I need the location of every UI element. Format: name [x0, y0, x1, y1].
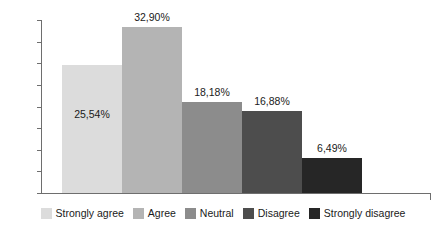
y-axis-tick-mark: [37, 128, 41, 129]
legend-item[interactable]: Neutral: [185, 208, 234, 219]
legend-label: Disagree: [258, 208, 300, 219]
legend-swatch-icon: [309, 208, 320, 219]
legend-item[interactable]: Disagree: [243, 208, 300, 219]
legend-label: Agree: [148, 208, 176, 219]
legend-label: Strongly agree: [56, 208, 124, 219]
legend-swatch-icon: [185, 208, 196, 219]
y-axis-tick-mark: [37, 42, 41, 43]
y-axis-tick-mark: [37, 193, 41, 194]
bar-group[interactable]: 16,88%: [242, 20, 302, 193]
bar-value-label: 6,49%: [284, 143, 380, 154]
legend-swatch-icon: [133, 208, 144, 219]
x-axis-line: [41, 193, 431, 194]
bar[interactable]: [122, 27, 182, 194]
y-axis-tick-mark: [37, 107, 41, 108]
legend-label: Neutral: [200, 208, 234, 219]
y-axis-line: [41, 20, 42, 194]
bar[interactable]: [302, 158, 362, 193]
bar[interactable]: [62, 65, 122, 193]
legend-swatch-icon: [41, 208, 52, 219]
legend-item[interactable]: Strongly agree: [41, 208, 124, 219]
bars-layer: 25,54%32,90%18,18%16,88%6,49%: [62, 20, 362, 193]
bar-group[interactable]: 32,90%: [122, 20, 182, 193]
x-axis-right-tick: [430, 193, 431, 200]
legend-item[interactable]: Agree: [133, 208, 176, 219]
bar-chart: 80706050403020100 25,54%32,90%18,18%16,8…: [0, 0, 446, 238]
chart-legend: Strongly agreeAgreeNeutralDisagreeStrong…: [0, 208, 446, 219]
plot-area: 80706050403020100 25,54%32,90%18,18%16,8…: [41, 20, 431, 193]
legend-label: Strongly disagree: [324, 208, 406, 219]
y-axis-tick-mark: [37, 150, 41, 151]
bar[interactable]: [182, 102, 242, 193]
bar-group[interactable]: 6,49%: [302, 20, 362, 193]
y-axis-tick-mark: [37, 63, 41, 64]
y-axis-tick-mark: [37, 20, 41, 21]
legend-swatch-icon: [243, 208, 254, 219]
legend-item[interactable]: Strongly disagree: [309, 208, 406, 219]
y-axis-tick-mark: [37, 85, 41, 86]
y-axis-tick-mark: [37, 171, 41, 172]
bar-group[interactable]: 25,54%: [62, 20, 122, 193]
